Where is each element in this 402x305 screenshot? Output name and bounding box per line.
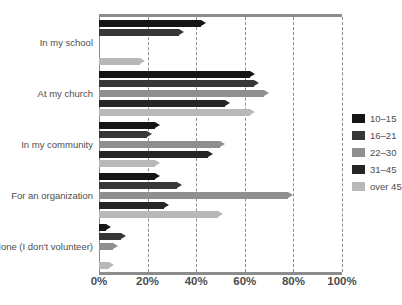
bar-row — [99, 20, 342, 27]
bar-row — [99, 160, 342, 167]
bar-arrow-cap — [155, 122, 160, 128]
bar — [99, 20, 201, 27]
plot-top-border — [99, 14, 342, 17]
bar — [99, 80, 254, 87]
bar — [99, 192, 288, 199]
x-axis-tick-labels: 0%20%40%60%80%100% — [0, 275, 402, 297]
bar-arrow-cap — [264, 90, 269, 96]
legend-swatch-icon — [352, 114, 365, 123]
bar-row — [99, 109, 342, 116]
bar-row — [99, 122, 342, 129]
bar-arrow-cap — [254, 80, 259, 86]
category-label: In my community — [21, 140, 93, 150]
legend-item[interactable]: 22–30 — [352, 145, 402, 160]
gridline-100 — [342, 17, 343, 272]
bar-row — [99, 173, 342, 180]
legend-swatch-icon — [352, 131, 365, 140]
bar-row — [99, 192, 342, 199]
bar — [99, 173, 155, 180]
bar-arrow-cap — [121, 233, 126, 239]
bar-row — [99, 29, 342, 36]
bar-row — [99, 202, 342, 209]
x-tick-label: 40% — [185, 275, 208, 287]
bar — [99, 224, 106, 231]
category-label: None (I don't volunteer) — [0, 242, 93, 252]
legend-swatch-icon — [352, 182, 365, 191]
bar-row — [99, 243, 342, 250]
bar-arrow-cap — [201, 20, 206, 26]
legend-label: over 45 — [370, 181, 402, 192]
bar-row — [99, 182, 342, 189]
legend-item[interactable]: 31–45 — [352, 162, 402, 177]
bar-arrow-cap — [250, 109, 255, 115]
bar-arrow-cap — [288, 192, 293, 198]
bar-arrow-cap — [113, 243, 118, 249]
bar-arrow-cap — [218, 211, 223, 217]
bar-arrow-cap — [225, 100, 230, 106]
legend-label: 16–21 — [370, 130, 396, 141]
bar — [99, 100, 225, 107]
bar-arrow-cap — [164, 202, 169, 208]
x-tick-label: 80% — [282, 275, 305, 287]
legend-item[interactable]: 16–21 — [352, 128, 402, 143]
bar-arrow-cap — [250, 71, 255, 77]
x-tick-label: 20% — [136, 275, 159, 287]
bar-row — [99, 80, 342, 87]
bar — [99, 141, 220, 148]
bar-row — [99, 233, 342, 240]
bar — [99, 243, 113, 250]
category-label: For an organization — [11, 191, 93, 201]
bar-row — [99, 211, 342, 218]
x-tick-label: 0% — [91, 275, 108, 287]
bar — [99, 262, 109, 269]
bar — [99, 211, 218, 218]
x-tick-label: 100% — [327, 275, 356, 287]
bar-arrow-cap — [155, 173, 160, 179]
bar — [99, 58, 140, 65]
bar — [99, 151, 208, 158]
bar — [99, 182, 177, 189]
bar-row — [99, 141, 342, 148]
bar — [99, 122, 155, 129]
plot-area — [99, 17, 342, 272]
bar — [99, 131, 147, 138]
bar-arrow-cap — [106, 224, 111, 230]
legend-label: 22–30 — [370, 147, 396, 158]
legend-swatch-icon — [352, 165, 365, 174]
legend-item[interactable]: over 45 — [352, 179, 402, 194]
category-axis: In my schoolAt my churchIn my communityF… — [0, 17, 99, 272]
bar-row — [99, 100, 342, 107]
legend: 10–1516–2122–3031–45over 45 — [352, 111, 402, 196]
bar-row — [99, 224, 342, 231]
bar — [99, 109, 250, 116]
legend-swatch-icon — [352, 148, 365, 157]
bar-arrow-cap — [109, 262, 114, 268]
bar-arrow-cap — [208, 151, 213, 157]
category-label: At my church — [38, 89, 93, 99]
legend-item[interactable]: 10–15 — [352, 111, 402, 126]
legend-label: 10–15 — [370, 113, 396, 124]
bar-row — [99, 131, 342, 138]
bar — [99, 202, 164, 209]
bar-arrow-cap — [147, 131, 152, 137]
bar — [99, 233, 121, 240]
bar-row — [99, 71, 342, 78]
bar — [99, 71, 250, 78]
bar-arrow-cap — [179, 29, 184, 35]
bar-chart: In my schoolAt my churchIn my communityF… — [0, 0, 402, 305]
bar-arrow-cap — [155, 160, 160, 166]
bar — [99, 160, 155, 167]
bar-row — [99, 151, 342, 158]
bar-arrow-cap — [177, 182, 182, 188]
bar-row — [99, 262, 342, 269]
bar — [99, 29, 179, 36]
legend-label: 31–45 — [370, 164, 396, 175]
bar — [99, 90, 264, 97]
bar-row — [99, 58, 342, 65]
x-tick-label: 60% — [233, 275, 256, 287]
bar-arrow-cap — [220, 141, 225, 147]
bar-arrow-cap — [140, 58, 145, 64]
bar-row — [99, 90, 342, 97]
category-label: In my school — [40, 38, 93, 48]
